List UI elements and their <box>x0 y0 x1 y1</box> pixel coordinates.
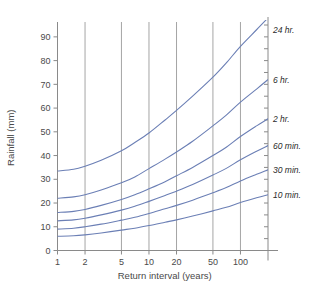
y-axis-title: Rainfall (mm) <box>5 110 16 166</box>
y-tick-label-20: 20 <box>40 198 50 208</box>
curve-24-hr <box>58 18 269 171</box>
rainfall-return-interval-chart: 010203040506070809012510205010024 hr.6 h… <box>0 0 315 287</box>
x-tick-label-2: 2 <box>83 257 88 267</box>
curve-label-6-hr: 6 hr. <box>273 75 290 85</box>
chart-canvas: 010203040506070809012510205010024 hr.6 h… <box>0 0 315 287</box>
curve-2-hr <box>58 119 269 213</box>
x-tick-label-1: 1 <box>55 257 60 267</box>
x-tick-label-20: 20 <box>172 257 182 267</box>
x-tick-label-50: 50 <box>208 257 218 267</box>
y-tick-label-60: 60 <box>40 103 50 113</box>
curve-10-min <box>58 195 269 237</box>
y-tick-label-30: 30 <box>40 174 50 184</box>
curve-label-60-min: 60 min. <box>273 141 301 151</box>
y-tick-label-70: 70 <box>40 80 50 90</box>
x-tick-label-100: 100 <box>233 257 248 267</box>
curve-label-10-min: 10 min. <box>273 190 301 200</box>
y-tick-label-0: 0 <box>45 246 50 256</box>
x-axis-title: Return interval (years) <box>118 270 212 281</box>
y-tick-label-10: 10 <box>40 222 50 232</box>
y-tick-label-40: 40 <box>40 151 50 161</box>
y-tick-label-80: 80 <box>40 56 50 66</box>
y-tick-label-50: 50 <box>40 127 50 137</box>
curve-label-2-hr: 2 hr. <box>272 114 290 124</box>
curve-30-min <box>58 170 269 229</box>
x-tick-label-5: 5 <box>119 257 124 267</box>
curve-label-24-hr: 24 hr. <box>272 25 294 35</box>
x-tick-label-10: 10 <box>144 257 154 267</box>
y-tick-label-90: 90 <box>40 32 50 42</box>
curve-label-30-min: 30 min. <box>273 165 301 175</box>
